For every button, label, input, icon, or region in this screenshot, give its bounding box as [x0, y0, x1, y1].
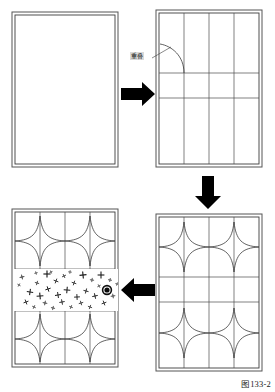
panel-stars — [156, 214, 262, 371]
panel-finished — [12, 209, 119, 367]
arrow-down-glyph — [195, 176, 221, 209]
figure-caption: 图133-2 — [241, 377, 271, 389]
panel-blank-inner-border — [15, 15, 115, 164]
arrow-down-step2-to-step3 — [195, 176, 221, 209]
arrow-left-glyph — [121, 278, 155, 302]
speckle-band — [14, 269, 119, 311]
overlap-annotation-label: 重叠 — [130, 52, 144, 60]
arrow-left-step3-to-step4 — [121, 278, 155, 302]
arrow-right-glyph — [121, 82, 155, 106]
panel-blank — [12, 12, 118, 167]
arrow-right-step1-to-step2 — [121, 82, 155, 106]
panel-grid — [152, 10, 262, 167]
